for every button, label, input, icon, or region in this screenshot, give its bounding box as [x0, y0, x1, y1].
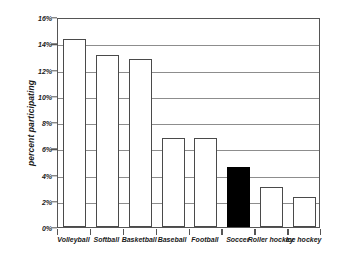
x-tick-mark	[90, 229, 91, 235]
x-label-ice-hockey: Ice hockey	[286, 236, 322, 243]
x-tick-mark	[57, 229, 58, 235]
x-label-football: Football	[191, 236, 218, 243]
y-tick-label: 12%	[12, 67, 52, 74]
x-tick-mark	[123, 229, 124, 235]
x-tick-mark	[156, 229, 157, 235]
bar-basketball	[129, 59, 152, 227]
y-tick-label: 16%	[12, 15, 52, 22]
bar-soccer	[227, 167, 250, 227]
x-tick-mark	[221, 229, 222, 235]
x-tick-mark	[320, 229, 321, 235]
x-label-softball: Softball	[93, 236, 119, 243]
x-tick-mark	[254, 229, 255, 235]
bar-ice-hockey	[293, 197, 316, 227]
y-tick-label: 10%	[12, 93, 52, 100]
y-tick-label: 0%	[12, 225, 52, 232]
x-tick-mark	[189, 229, 190, 235]
x-label-basketball: Basketball	[122, 236, 157, 243]
y-tick-label: 14%	[12, 41, 52, 48]
x-label-baseball: Baseball	[158, 236, 187, 243]
bar-baseball	[162, 138, 185, 227]
plot-area	[57, 18, 320, 228]
x-label-volleyball: Volleyball	[57, 236, 89, 243]
bar-chart: percent participating 16%14%12%10%8%6%4%…	[0, 0, 345, 263]
y-tick-label: 4%	[12, 172, 52, 179]
y-tick-label: 8%	[12, 120, 52, 127]
bar-softball	[96, 55, 119, 227]
bar-volleyball	[63, 39, 86, 227]
bar-football	[194, 138, 217, 227]
y-tick-label: 2%	[12, 198, 52, 205]
y-tick-label: 6%	[12, 146, 52, 153]
x-tick-mark	[287, 229, 288, 235]
gridline	[58, 45, 319, 46]
x-label-soccer: Soccer	[226, 236, 249, 243]
bar-roller-hockey	[260, 187, 283, 227]
